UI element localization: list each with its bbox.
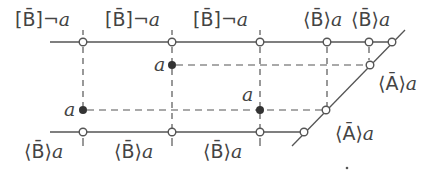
horizontal-dashes [87,65,368,110]
interval-diagram: [B̄]¬a [B̄]¬a [B̄]¬a ⟨B̄⟩a ⟨B̄⟩a a a a ⟨… [0,0,446,178]
point-label-2: a [64,98,75,120]
vertical-dashes [83,47,369,128]
stray-dot [346,167,349,170]
top-label-3: [B̄]¬a [193,7,248,30]
top-label-2: [B̄]¬a [105,7,160,30]
point-label-1: a [154,53,165,75]
top-label-1: [B̄]¬a [15,7,70,30]
bottom-label-1: ⟨B̄⟩a [24,139,63,162]
top-label-4: ⟨B̄⟩a [303,7,342,30]
point-label-3: a [242,83,253,105]
bottom-label-2: ⟨B̄⟩a [114,139,153,162]
right-label-1: ⟨Ā⟩a [378,71,417,94]
bottom-label-3: ⟨B̄⟩a [203,139,242,162]
right-label-2: ⟨Ā⟩a [335,121,374,144]
top-label-5: ⟨B̄⟩a [351,7,390,30]
